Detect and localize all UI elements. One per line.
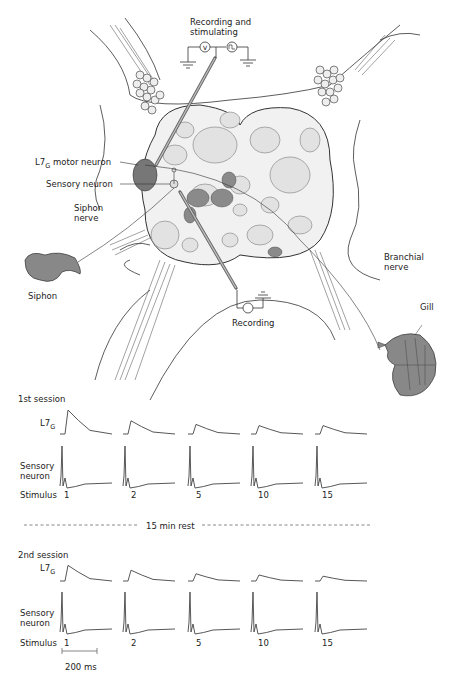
l7g-epsp-trace bbox=[188, 424, 240, 434]
l7g-epsp-trace bbox=[60, 410, 112, 434]
sensory-spike-trace bbox=[188, 446, 240, 488]
sensory-spike-trace bbox=[60, 446, 112, 488]
l7g-epsp-trace bbox=[251, 575, 303, 581]
electrophysiology-traces bbox=[0, 0, 449, 679]
sensory-spike-trace bbox=[251, 592, 303, 634]
scale-bar bbox=[62, 648, 97, 654]
l7g-epsp-trace bbox=[188, 574, 240, 581]
sensory-spike-trace bbox=[188, 592, 240, 634]
sensory-spike-trace bbox=[60, 592, 112, 634]
l7g-epsp-trace bbox=[315, 426, 367, 434]
l7g-epsp-trace bbox=[251, 426, 303, 434]
sensory-spike-trace bbox=[315, 592, 367, 634]
sensory-spike-trace bbox=[123, 446, 175, 488]
sensory-spike-trace bbox=[251, 446, 303, 488]
sensory-spike-trace bbox=[315, 446, 367, 488]
l7g-epsp-trace bbox=[123, 570, 175, 581]
l7g-epsp-trace bbox=[315, 576, 367, 581]
l7g-epsp-trace bbox=[123, 421, 175, 434]
l7g-epsp-trace bbox=[60, 565, 112, 581]
sensory-spike-trace bbox=[123, 592, 175, 634]
